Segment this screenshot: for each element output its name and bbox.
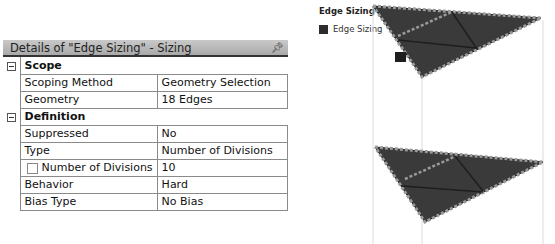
property-key: Geometry [20, 91, 157, 108]
table-row[interactable]: Geometry 18 Edges [3, 91, 288, 108]
group-row-definition[interactable]: Definition [3, 108, 288, 125]
details-panel: Details of "Edge Sizing" - Sizing 📌︎ Sco… [3, 40, 288, 211]
property-value[interactable]: 18 Edges [157, 91, 287, 108]
group-row-scope[interactable]: Scope [3, 57, 288, 74]
parameter-checkbox[interactable] [27, 163, 38, 174]
properties-table: Scope Scoping Method Geometry Selection … [3, 57, 288, 211]
property-key: Scoping Method [20, 74, 157, 91]
details-title: Details of "Edge Sizing" - Sizing [10, 41, 192, 55]
mesh-body-lower[interactable] [375, 147, 543, 222]
mesh-body-upper[interactable] [373, 6, 541, 77]
table-row[interactable]: Bias Type No Bias [3, 193, 288, 210]
property-value[interactable]: Hard [157, 176, 287, 193]
property-key: Number of Divisions [20, 159, 157, 176]
table-row[interactable]: Scoping Method Geometry Selection [3, 74, 288, 91]
property-value[interactable]: No Bias [157, 193, 287, 210]
property-value[interactable]: No [157, 125, 287, 142]
property-key: Suppressed [20, 125, 157, 142]
graphics-viewport[interactable] [360, 0, 555, 244]
table-row[interactable]: Number of Divisions 10 [3, 159, 288, 176]
group-label-scope: Scope [20, 57, 288, 74]
property-value[interactable]: 10 [157, 159, 287, 176]
edge-marker-annotation [395, 52, 406, 62]
collapse-icon[interactable] [7, 62, 16, 71]
property-key: Bias Type [20, 193, 157, 210]
group-label-definition: Definition [20, 108, 288, 125]
legend-swatch [319, 25, 328, 34]
pin-icon[interactable]: 📌︎ [271, 43, 284, 53]
property-key-label: Number of Divisions [42, 161, 153, 174]
table-row[interactable]: Type Number of Divisions [3, 142, 288, 159]
property-key: Behavior [20, 176, 157, 193]
collapse-icon[interactable] [7, 113, 16, 122]
details-panel-header: Details of "Edge Sizing" - Sizing 📌︎ [3, 40, 288, 57]
property-key: Type [20, 142, 157, 159]
table-row[interactable]: Behavior Hard [3, 176, 288, 193]
table-row[interactable]: Suppressed No [3, 125, 288, 142]
property-value[interactable]: Geometry Selection [157, 74, 287, 91]
property-value[interactable]: Number of Divisions [157, 142, 287, 159]
